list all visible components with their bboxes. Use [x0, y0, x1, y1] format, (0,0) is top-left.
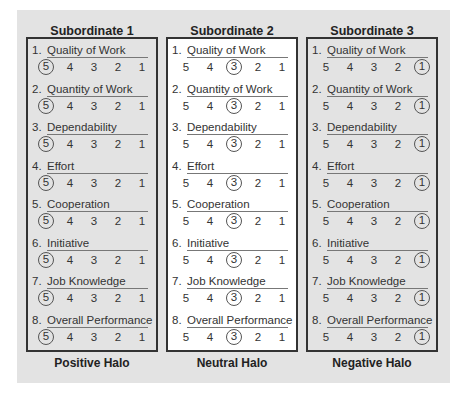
underline [327, 250, 428, 251]
item-label: 1.Quality of Work [32, 44, 125, 56]
item-number: 6. [32, 237, 47, 249]
rating-item: 8.Overall Performance54321 [168, 314, 296, 350]
rating-option: 4 [62, 329, 78, 345]
rating-option: 1 [134, 136, 150, 152]
item-label: 6.Initiative [312, 237, 369, 249]
rating-scale: 54321 [318, 136, 430, 152]
halo-effect-figure: Subordinate 11.Quality of Work543212.Qua… [17, 10, 450, 383]
rating-option: 3 [366, 98, 382, 114]
rating-option: 1 [134, 98, 150, 114]
item-number: 5. [32, 198, 47, 210]
item-text: Overall Performance [327, 314, 432, 326]
rating-option-selected: 5 [38, 175, 54, 191]
rating-option-selected: 3 [226, 290, 242, 306]
item-label: 1.Quality of Work [312, 44, 405, 56]
rating-option: 5 [318, 136, 334, 152]
item-label: 3.Dependability [32, 121, 117, 133]
underline [47, 96, 148, 97]
item-text: Cooperation [327, 198, 390, 210]
rating-option: 4 [342, 175, 358, 191]
rating-option: 5 [318, 252, 334, 268]
halo-type-label: Positive Halo [26, 356, 158, 370]
item-text: Quality of Work [327, 44, 405, 56]
rating-scale: 54321 [318, 329, 430, 345]
item-number: 2. [32, 83, 47, 95]
underline [187, 96, 288, 97]
item-number: 5. [172, 198, 187, 210]
item-label: 6.Initiative [32, 237, 89, 249]
item-text: Cooperation [47, 198, 110, 210]
underline [187, 134, 288, 135]
underline [327, 134, 428, 135]
rating-item: 3.Dependability54321 [168, 121, 296, 157]
rating-option: 4 [342, 213, 358, 229]
rating-option: 5 [318, 98, 334, 114]
rating-scale: 54321 [178, 175, 290, 191]
rating-option: 4 [342, 136, 358, 152]
item-number: 1. [32, 44, 47, 56]
halo-type-label: Neutral Halo [166, 356, 298, 370]
rating-option: 2 [110, 175, 126, 191]
rating-option: 2 [250, 59, 266, 75]
rating-item: 5.Cooperation54321 [308, 198, 436, 234]
rating-option: 4 [202, 59, 218, 75]
item-text: Job Knowledge [327, 275, 406, 287]
underline [327, 288, 428, 289]
rating-scale: 54321 [318, 98, 430, 114]
underline [187, 57, 288, 58]
rating-option: 1 [274, 252, 290, 268]
rating-item: 1.Quality of Work54321 [28, 44, 156, 80]
rating-option: 2 [250, 136, 266, 152]
rating-option-selected: 3 [226, 98, 242, 114]
rating-option: 2 [390, 290, 406, 306]
rating-option: 1 [274, 290, 290, 306]
rating-scale: 54321 [38, 252, 150, 268]
rating-option-selected: 5 [38, 98, 54, 114]
rating-form: 1.Quality of Work543212.Quantity of Work… [166, 37, 298, 352]
rating-option: 4 [342, 252, 358, 268]
rating-form: 1.Quality of Work543212.Quantity of Work… [26, 37, 158, 352]
rating-option: 3 [366, 136, 382, 152]
rating-item: 7.Job Knowledge54321 [168, 275, 296, 311]
rating-option: 2 [110, 329, 126, 345]
item-label: 4.Effort [32, 160, 74, 172]
rating-item: 6.Initiative54321 [308, 237, 436, 273]
rating-option: 3 [366, 329, 382, 345]
item-label: 3.Dependability [172, 121, 257, 133]
rating-option: 2 [110, 59, 126, 75]
rating-option-selected: 5 [38, 329, 54, 345]
item-number: 5. [312, 198, 327, 210]
item-number: 2. [172, 83, 187, 95]
rating-option: 1 [134, 252, 150, 268]
underline [187, 173, 288, 174]
item-label: 7.Job Knowledge [172, 275, 266, 287]
item-text: Job Knowledge [187, 275, 266, 287]
rating-scale: 54321 [38, 59, 150, 75]
item-label: 7.Job Knowledge [32, 275, 126, 287]
rating-option: 4 [202, 175, 218, 191]
rating-scale: 54321 [318, 290, 430, 306]
rating-option: 2 [250, 98, 266, 114]
rating-option: 2 [390, 175, 406, 191]
rating-option-selected: 3 [226, 213, 242, 229]
item-number: 4. [172, 160, 187, 172]
rating-option: 5 [318, 59, 334, 75]
underline [187, 288, 288, 289]
item-number: 3. [32, 121, 47, 133]
rating-option: 3 [86, 59, 102, 75]
item-label: 6.Initiative [172, 237, 229, 249]
rating-option: 3 [86, 213, 102, 229]
rating-item: 7.Job Knowledge54321 [308, 275, 436, 311]
item-number: 7. [312, 275, 327, 287]
rating-option: 5 [178, 329, 194, 345]
rating-option-selected: 1 [414, 175, 430, 191]
rating-option: 3 [366, 290, 382, 306]
rating-scale: 54321 [38, 290, 150, 306]
item-text: Dependability [47, 121, 117, 133]
rating-option: 2 [390, 252, 406, 268]
rating-option: 1 [134, 290, 150, 306]
rating-option: 2 [390, 136, 406, 152]
underline [187, 250, 288, 251]
underline [47, 57, 148, 58]
rating-option: 2 [250, 175, 266, 191]
